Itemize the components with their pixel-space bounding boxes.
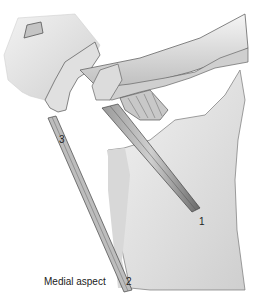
figure-caption: Medial aspect [44,276,106,287]
label-2: 2 [126,277,132,287]
label-1: 1 [199,217,205,227]
label-3: 3 [59,135,65,145]
anatomical-illustration [0,0,260,303]
